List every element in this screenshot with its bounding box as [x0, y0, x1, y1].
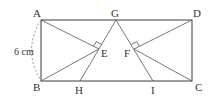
label-d: D — [193, 7, 201, 19]
rectangle-abcd — [41, 20, 192, 81]
segment-be — [41, 49, 99, 81]
segment-gi — [116, 20, 153, 81]
segment-df — [134, 20, 192, 49]
label-e: E — [101, 47, 108, 59]
label-f: F — [124, 47, 130, 59]
label-h: H — [75, 84, 83, 96]
label-g: G — [111, 7, 119, 19]
segment-gh — [80, 20, 116, 81]
segment-cf — [134, 49, 192, 81]
dimension-label: 6 cm — [14, 46, 34, 57]
right-angle-mark-f — [131, 42, 139, 47]
label-c: C — [195, 81, 202, 93]
segment-ae — [41, 20, 99, 49]
label-a: A — [33, 7, 41, 19]
geometry-diagram: A B C D G H I E F 6 cm — [0, 0, 209, 102]
label-b: B — [33, 81, 40, 93]
label-i: I — [151, 84, 155, 96]
